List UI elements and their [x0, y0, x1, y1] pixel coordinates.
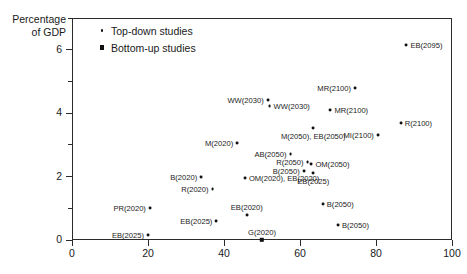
data-point-label: MI(2100): [344, 131, 374, 140]
data-point: [148, 207, 151, 210]
x-axis-tick: [452, 240, 453, 246]
data-point: [376, 134, 379, 137]
x-axis-tick: [300, 240, 301, 246]
y-axis-minor-tick: [68, 144, 73, 145]
y-axis-tick-label: 0: [36, 233, 62, 245]
data-point: [211, 187, 214, 190]
data-point-label: EB(2025): [180, 216, 212, 225]
data-point-label: G(2020): [248, 228, 276, 237]
data-point-label: R(2100): [405, 118, 432, 127]
data-point-label: EB(2095): [410, 40, 442, 49]
data-point: [260, 238, 264, 242]
data-point-label: M(2020): [205, 139, 233, 148]
y-axis-title-line1: Percentage: [0, 13, 66, 26]
data-point-label: PR(2020): [113, 204, 146, 213]
data-point: [147, 234, 150, 237]
data-point: [236, 142, 239, 145]
y-axis-tick-label: 2: [36, 170, 62, 182]
data-point-label: B(2050): [342, 220, 369, 229]
y-axis-tick: [66, 176, 73, 177]
data-point-label: WW(2030): [274, 102, 310, 111]
y-axis-tick-label: 6: [36, 43, 62, 55]
data-point: [329, 109, 332, 112]
x-axis-tick-label: 80: [356, 247, 396, 259]
legend-item-bottom-up: Bottom-up studies: [96, 39, 196, 56]
data-point-label: R(2020): [181, 184, 208, 193]
chart-legend: Top-down studies Bottom-up studies: [96, 22, 196, 56]
data-point: [266, 98, 269, 101]
data-point-label: B(2020): [170, 173, 197, 182]
legend-label-top-down: Top-down studies: [111, 25, 193, 37]
y-axis-minor-tick: [68, 208, 73, 209]
data-point-label: M(2050), EB(2050): [281, 132, 346, 141]
data-point: [310, 162, 313, 165]
y-axis-minor-tick: [68, 18, 73, 19]
data-point-label: OM(2020), EB(2020): [249, 174, 319, 183]
x-axis-tick-label: 0: [52, 247, 92, 259]
y-axis-tick: [66, 49, 73, 50]
data-point: [245, 214, 248, 217]
y-axis-tick-label: 4: [36, 106, 62, 118]
data-point: [215, 220, 218, 223]
data-point-label: B(2050): [327, 200, 354, 209]
data-point: [306, 161, 309, 164]
legend-square-marker-icon: [96, 45, 108, 49]
x-axis-tick-label: 20: [128, 247, 168, 259]
data-point: [289, 152, 292, 155]
data-point: [354, 86, 357, 89]
data-point-label: MR(2100): [334, 105, 368, 114]
x-axis-tick-label: 40: [204, 247, 244, 259]
legend-label-bottom-up: Bottom-up studies: [111, 42, 196, 54]
scatter-chart: Percentage of GDP 0246020406080100EB(209…: [0, 0, 467, 274]
data-point: [337, 223, 340, 226]
legend-item-top-down: Top-down studies: [96, 22, 196, 39]
data-point: [302, 169, 305, 172]
data-point: [312, 127, 315, 130]
y-axis-tick: [66, 113, 73, 114]
y-axis-minor-tick: [68, 81, 73, 82]
x-axis-tick: [148, 240, 149, 246]
y-axis-title: Percentage of GDP: [0, 13, 66, 39]
data-point: [321, 203, 324, 206]
x-axis-tick-label: 100: [432, 247, 467, 259]
data-point: [243, 177, 246, 180]
x-axis-tick: [224, 240, 225, 246]
x-axis-tick-label: 60: [280, 247, 320, 259]
data-point-label: EB(2020): [231, 203, 263, 212]
x-axis-tick: [376, 240, 377, 246]
data-point: [268, 105, 271, 108]
data-point-label: OM(2050): [315, 159, 349, 168]
data-point: [399, 121, 402, 124]
x-axis-tick: [72, 240, 73, 246]
data-point: [200, 176, 203, 179]
legend-circle-marker-icon: [96, 29, 108, 32]
data-point-label: MR(2100): [317, 83, 351, 92]
data-point-label: WW(2030): [227, 95, 263, 104]
data-point-label: EB(2025): [112, 231, 144, 240]
data-point: [405, 44, 408, 47]
y-axis-title-line2: of GDP: [0, 26, 66, 39]
